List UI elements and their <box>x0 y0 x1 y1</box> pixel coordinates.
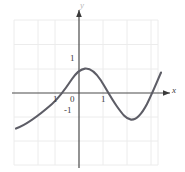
plot-canvas <box>0 0 185 172</box>
y-tick-label-neg1: -1 <box>64 106 72 115</box>
graph-figure: 1 0 1 1 -1 x y <box>0 0 185 172</box>
x-axis-label: x <box>172 86 176 95</box>
x-axis <box>12 90 170 96</box>
x-tick-label-0: 0 <box>70 95 75 104</box>
y-axis <box>76 10 82 168</box>
x-tick-label-1: 1 <box>101 95 106 104</box>
y-tick-label-1: 1 <box>70 54 75 63</box>
x-tick-label-neg1: 1 <box>53 95 58 104</box>
y-axis-label: y <box>80 1 84 10</box>
